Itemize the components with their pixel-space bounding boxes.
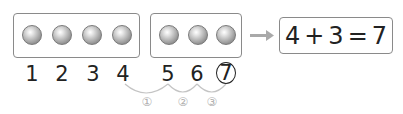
equation-right: 3 [328,22,343,50]
equation-plus: + [304,22,324,50]
ball-icon [22,25,42,45]
equation-box: 4 + 3 = 7 [279,17,393,54]
group-b-box [150,13,242,58]
number-6: 6 [187,62,207,86]
equation-equals: = [348,22,368,50]
number-1: 1 [22,62,42,86]
ball-icon [82,25,102,45]
equation-left: 4 [285,22,300,50]
step-label-1: ① [140,95,154,109]
ball-icon [52,25,72,45]
group-a-box [13,13,140,58]
number-7-circled: 7 [216,62,236,84]
ball-icon [112,25,132,45]
step-label-2: ② [176,95,190,109]
equation-result: 7 [372,22,387,50]
arrow-icon [250,30,274,41]
ball-icon [216,25,236,45]
number-2: 2 [52,62,72,86]
ball-icon [188,25,208,45]
number-5: 5 [158,62,178,86]
ball-icon [159,25,179,45]
step-label-3: ③ [205,95,219,109]
number-4: 4 [113,62,133,86]
number-3: 3 [83,62,103,86]
